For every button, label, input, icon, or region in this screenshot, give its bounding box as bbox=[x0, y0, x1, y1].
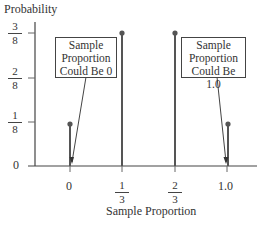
callout-could-be-0: Sample Proportion Could Be 0 bbox=[55, 37, 117, 78]
x-axis-label: Sample Proportion bbox=[106, 204, 196, 219]
callout-line: Could Be 1.0 bbox=[184, 65, 243, 91]
callout-line: Sample bbox=[184, 39, 243, 52]
callout-could-be-1-0: Sample Proportion Could Be 1.0 bbox=[181, 37, 246, 78]
y-tick-label-1-8: 1 8 bbox=[8, 110, 22, 135]
callout-line: Proportion bbox=[58, 52, 114, 65]
callout-line: Proportion bbox=[184, 52, 243, 65]
x-tick-label-1-0: 1.0 bbox=[218, 179, 233, 194]
y-tick-num: 3 bbox=[8, 21, 22, 34]
x-tick-label-1-3: 1 3 bbox=[115, 180, 129, 205]
y-axis-label: Probability bbox=[4, 2, 57, 17]
x-tick-num: 1 bbox=[115, 180, 129, 193]
y-tick-den: 8 bbox=[8, 34, 22, 46]
y-tick-label-0: 0 bbox=[13, 158, 19, 173]
y-tick-label-2-8: 2 8 bbox=[8, 66, 22, 91]
x-tick-label-2-3: 2 3 bbox=[168, 180, 182, 205]
y-tick-den: 8 bbox=[8, 79, 22, 91]
stem-2-3 bbox=[172, 30, 177, 166]
x-tick-num: 2 bbox=[168, 180, 182, 193]
y-tick-num: 1 bbox=[8, 110, 22, 123]
callout-line: Sample bbox=[58, 39, 114, 52]
y-tick-label-3-8: 3 8 bbox=[8, 21, 22, 46]
x-tick-label-0: 0 bbox=[66, 179, 72, 194]
y-tick-num: 2 bbox=[8, 66, 22, 79]
y-tick-den: 8 bbox=[8, 123, 22, 135]
callout-line: Could Be 0 bbox=[58, 65, 114, 78]
stem-1-3 bbox=[119, 30, 124, 166]
arrow-to-0 bbox=[70, 77, 87, 164]
